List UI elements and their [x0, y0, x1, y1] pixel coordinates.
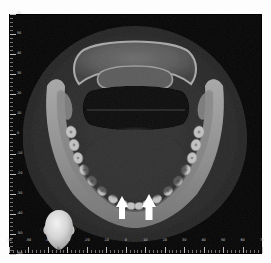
orientation-label-anterior: A — [57, 247, 59, 251]
annotation-arrow-left — [116, 196, 128, 219]
head-orientation-glyph — [39, 207, 79, 252]
head-orientation-indicator[interactable]: L R A — [39, 207, 79, 252]
y-axis-major-tick — [10, 254, 16, 255]
orientation-label-right: R — [74, 228, 77, 232]
cbct-axial-slice-viewer[interactable]: L R A 6050403020100-10-20-30-40-50-60 -6… — [0, 0, 271, 263]
orientation-label-left: L — [40, 228, 42, 232]
image-panel[interactable]: L R A — [9, 14, 262, 254]
annotation-arrow-right — [142, 194, 156, 220]
x-axis-major-tick — [262, 247, 263, 253]
